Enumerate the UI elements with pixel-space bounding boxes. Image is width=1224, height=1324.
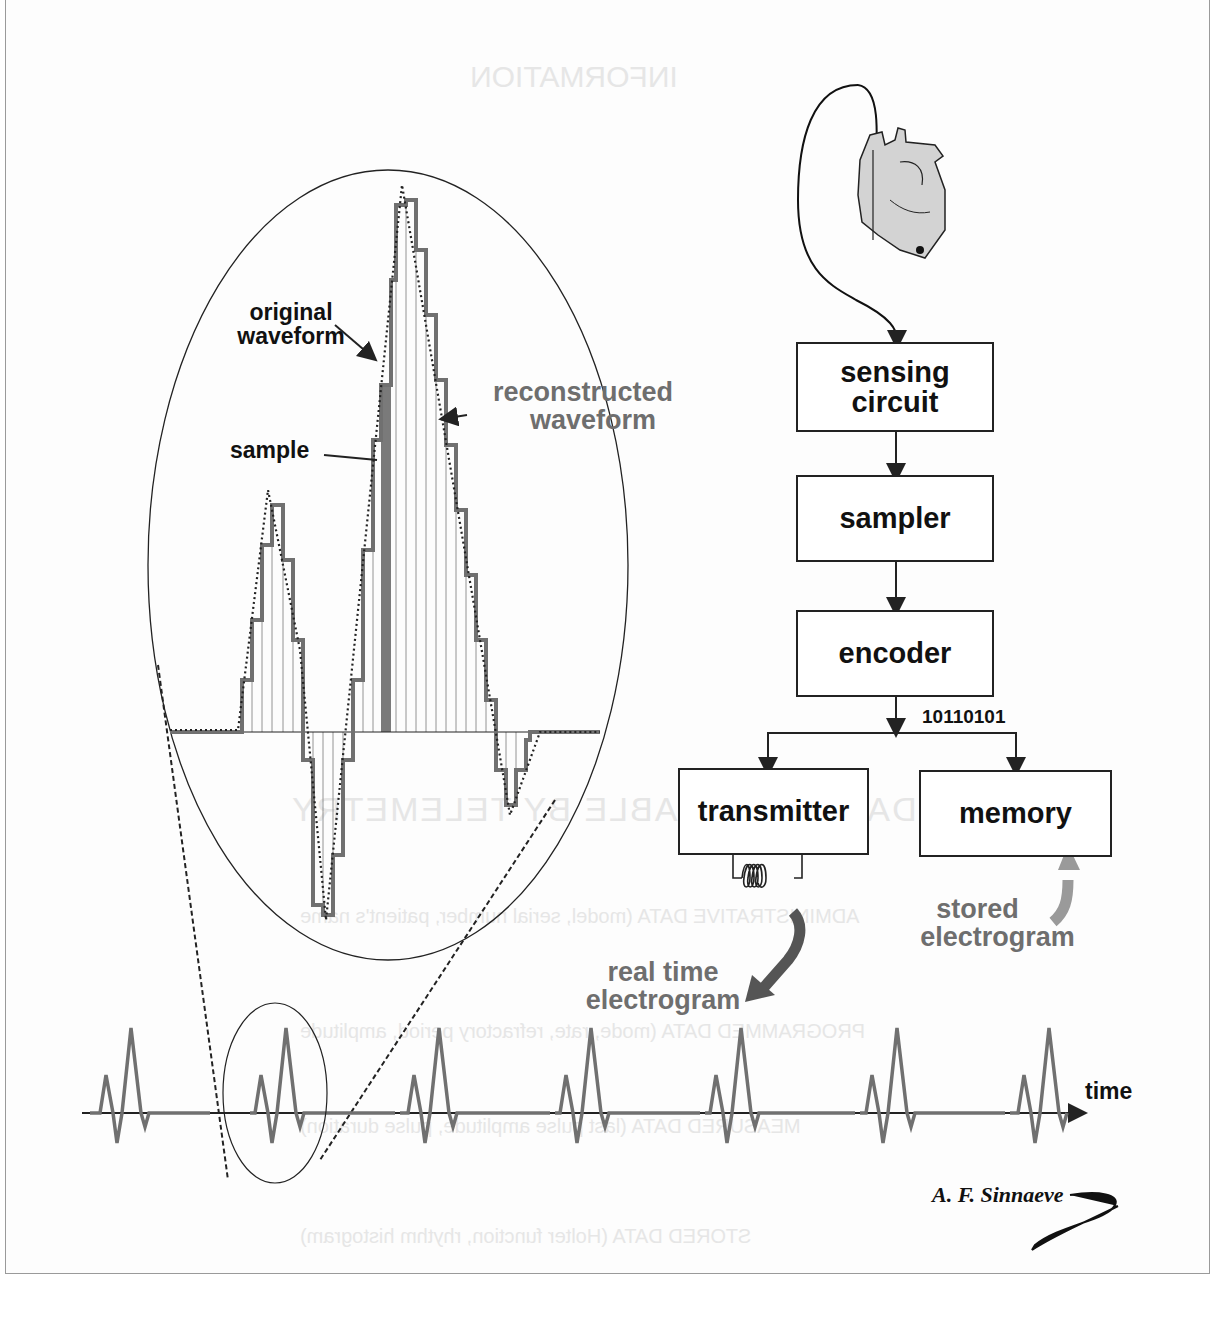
time-axis-label: time — [1085, 1079, 1132, 1103]
antenna-coil-icon — [733, 855, 802, 887]
real-time-label-line2: electrogram — [578, 986, 748, 1014]
electrogram-trace — [90, 1028, 1067, 1143]
stored-electrogram-label: stored electrogram — [900, 895, 1095, 952]
original-waveform-label-line2: waveform — [236, 324, 346, 348]
memory-label: memory — [959, 798, 1072, 828]
real-time-arrow — [745, 912, 800, 1002]
reconstructed-waveform-label: reconstructed waveform — [473, 378, 693, 435]
encoder-block: encoder — [796, 610, 994, 697]
transmitter-label: transmitter — [698, 796, 850, 826]
memory-block: memory — [919, 770, 1112, 857]
sampler-label: sampler — [839, 503, 950, 533]
heart-icon — [858, 128, 945, 258]
author-signature: A. F. Sinnaeve — [932, 1182, 1064, 1208]
binary-code-label: 10110101 — [922, 707, 1006, 727]
sampler-block: sampler — [796, 475, 994, 562]
real-time-electrogram-label: real time electrogram — [578, 958, 748, 1015]
real-time-label-line1: real time — [578, 958, 748, 986]
original-waveform-label-line1: original — [236, 300, 346, 324]
sample-label: sample — [230, 438, 309, 462]
sensing-circuit-label: sensing circuit — [830, 357, 960, 418]
stored-label-line2: electrogram — [900, 923, 1095, 951]
stored-label-line1: stored — [900, 895, 1095, 923]
sensing-circuit-block: sensing circuit — [796, 342, 994, 432]
transmitter-block: transmitter — [678, 768, 869, 855]
diagram-canvas — [0, 0, 1224, 1324]
reconstructed-waveform-label-line2: waveform — [473, 406, 693, 434]
encoder-label: encoder — [839, 638, 952, 668]
small-zoom-ellipse — [223, 1003, 327, 1183]
reconstructed-waveform-label-line1: reconstructed — [473, 378, 693, 406]
original-waveform-label: original waveform — [236, 300, 346, 348]
